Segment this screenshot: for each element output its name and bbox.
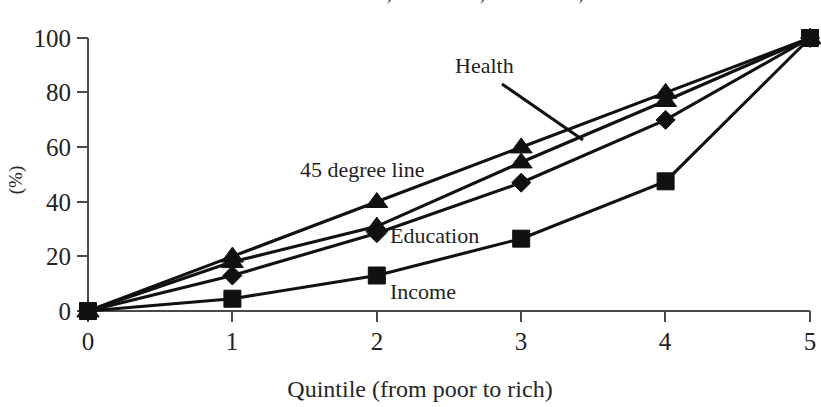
annotation-45-degree-line-label: 45 degree line (300, 157, 425, 182)
y-tick-label-20: 20 (46, 243, 71, 270)
data-point-marker (223, 266, 242, 285)
annotation-health-leader-line (502, 84, 583, 140)
data-point-marker (368, 267, 385, 284)
annotation-income-label: Income (390, 279, 456, 304)
data-point-marker (512, 173, 531, 192)
x-tick-label-2: 2 (371, 328, 384, 355)
x-tick-label-4: 4 (659, 328, 672, 355)
annotation-health-label: Health (455, 53, 514, 78)
y-axis: 100 80 60 40 20 0 (%) (5, 25, 88, 325)
x-tick-label-5: 5 (804, 328, 817, 355)
y-tick-label-100: 100 (34, 25, 72, 52)
x-tick-label-0: 0 (82, 328, 95, 355)
chart-figure: Distribution of income, education, and h… (0, 0, 821, 407)
data-point-marker (80, 303, 97, 320)
data-point-marker (513, 230, 530, 247)
series-health (77, 29, 821, 317)
data-point-marker (802, 30, 819, 47)
x-tick-label-3: 3 (515, 328, 528, 355)
series-line (88, 38, 810, 311)
x-axis-title: Quintile (from poor to rich) (287, 376, 552, 402)
annotation-health: Health (455, 53, 583, 140)
series-layer (77, 29, 821, 321)
line-chart-plot: 100 80 60 40 20 0 (%) 0 1 2 3 4 5 Quinti… (0, 0, 821, 407)
y-tick-label-80: 80 (46, 79, 71, 106)
x-axis: 0 1 2 3 4 5 Quintile (from poor to rich) (82, 311, 817, 402)
y-tick-label-60: 60 (46, 134, 71, 161)
data-point-marker (224, 290, 241, 307)
y-tick-label-0: 0 (59, 298, 72, 325)
y-tick-label-40: 40 (46, 189, 71, 216)
data-point-marker (656, 110, 675, 129)
data-point-marker (657, 173, 674, 190)
y-axis-title: (%) (5, 166, 27, 194)
x-tick-label-1: 1 (226, 328, 239, 355)
annotation-education-label: Education (390, 223, 479, 248)
